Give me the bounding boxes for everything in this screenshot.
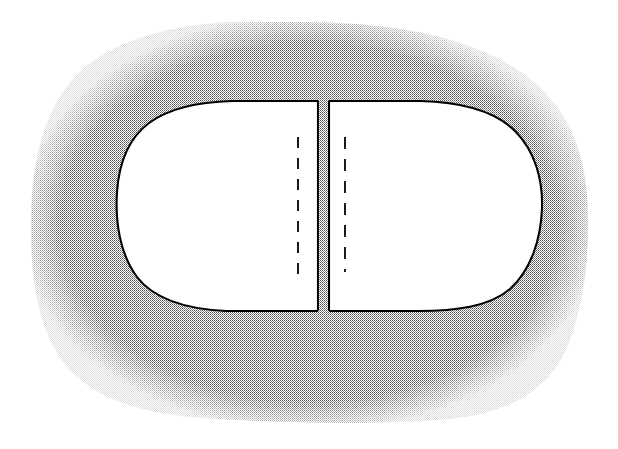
right-lobe bbox=[329, 101, 542, 311]
median-gap-stipple bbox=[318, 100, 329, 312]
figure-drawing bbox=[0, 0, 618, 449]
left-lobe bbox=[117, 101, 318, 311]
figure-canvas bbox=[0, 0, 618, 449]
